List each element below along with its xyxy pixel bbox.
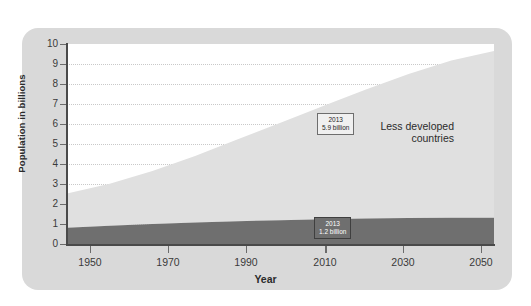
y-tick-label-8: 8 <box>4 79 58 89</box>
annotation-more-developed-2013: 2013 1.2 billion <box>314 217 351 239</box>
x-tick-mark-1990 <box>246 246 247 253</box>
y-tick-label-9: 9 <box>4 59 58 69</box>
stacked-area-series <box>67 44 494 244</box>
x-tick-label-2030: 2030 <box>383 256 423 268</box>
x-axis-line <box>66 244 495 246</box>
annotation-more-year: 2013 <box>319 220 346 228</box>
y-tick-label-10: 10 <box>4 39 58 49</box>
y-tick-label-1: 1 <box>4 219 58 229</box>
y-tick-label-2: 2 <box>4 199 58 209</box>
annotation-less-value: 5.9 billion <box>322 124 349 132</box>
y-tick-label-4: 4 <box>4 159 58 169</box>
population-growth-area-chart: Population in billions 10 9 8 7 6 5 4 3 … <box>0 0 531 306</box>
x-axis-title: Year <box>0 273 531 285</box>
x-tick-label-1950: 1950 <box>70 256 110 268</box>
y-tick-label-6: 6 <box>4 119 58 129</box>
annotation-less-year: 2013 <box>322 116 349 124</box>
x-tick-label-1990: 1990 <box>226 256 266 268</box>
x-tick-mark-1970 <box>168 246 169 253</box>
y-axis-line <box>66 43 68 245</box>
x-tick-label-2050: 2050 <box>461 256 501 268</box>
y-tick-label-7: 7 <box>4 99 58 109</box>
y-tick-label-5: 5 <box>4 139 58 149</box>
y-tick-label-3: 3 <box>4 179 58 189</box>
annotation-less-developed-2013: 2013 5.9 billion <box>317 113 354 135</box>
x-marker-2013 <box>326 246 327 253</box>
x-tick-mark-2050 <box>481 246 482 253</box>
y-tick-label-0: 0 <box>4 239 58 249</box>
series-label-less-line2: countries <box>411 132 454 144</box>
annotation-more-value: 1.2 billion <box>319 228 346 236</box>
x-tick-label-1970: 1970 <box>148 256 188 268</box>
y-axis-tick-labels: 10 9 8 7 6 5 4 3 2 1 0 <box>0 0 58 306</box>
series-label-less-line1: Less developed <box>380 120 454 132</box>
x-tick-mark-2030 <box>403 246 404 253</box>
plot-area: Less developed countries More developed … <box>67 44 494 244</box>
x-tick-mark-1950 <box>90 246 91 253</box>
x-tick-label-2010: 2010 <box>305 256 345 268</box>
